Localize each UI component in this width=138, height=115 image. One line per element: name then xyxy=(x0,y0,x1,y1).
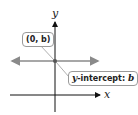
intercept-callout: y-intercept: b xyxy=(68,71,138,86)
intercept-value: b xyxy=(128,73,134,83)
point-callout: (0, b) xyxy=(22,32,54,47)
intercept-text: -intercept: xyxy=(77,74,128,83)
point-label: (0, b) xyxy=(26,35,50,44)
x-axis-label: x xyxy=(104,88,111,101)
graph-canvas: y x xyxy=(0,0,138,115)
y-axis-label: y xyxy=(51,7,59,20)
intercept-point xyxy=(53,59,57,63)
point-leader-line xyxy=(40,45,54,60)
